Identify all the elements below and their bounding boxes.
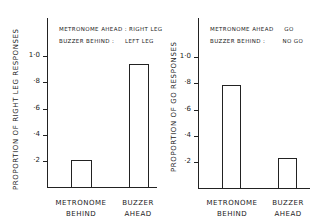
- category-label-buzzer-ahead: BUZZER AHEAD: [258, 198, 318, 220]
- category-line: METRONOME: [51, 198, 111, 209]
- tick-label: ·4: [26, 130, 40, 138]
- tick-label: 1·0: [177, 52, 191, 60]
- tick-label: ·2: [26, 156, 40, 164]
- legend-label: METRONOME AHEAD: [59, 26, 123, 32]
- legend-row-2: BUZZER BEHIND : LEFT LEG: [59, 38, 154, 44]
- tick: [43, 109, 47, 110]
- category-label-metronome-behind: METRONOME BEHIND: [51, 198, 111, 220]
- bar-buzzer-ahead: [129, 64, 149, 188]
- category-line: METRONOME: [202, 198, 262, 209]
- tick-label: ·6: [26, 104, 40, 112]
- tick-label: ·8: [26, 77, 40, 85]
- legend-row-1: METRONOME AHEAD GO: [210, 26, 294, 32]
- category-line: AHEAD: [108, 209, 168, 220]
- legend-value: NO GO: [282, 38, 303, 44]
- legend-label: METRONOME AHEAD: [210, 26, 274, 32]
- tick-label: ·2: [177, 157, 191, 165]
- tick: [194, 136, 198, 137]
- category-line: BEHIND: [202, 209, 262, 220]
- bar-metronome-behind: [222, 85, 241, 189]
- category-line: BUZZER: [258, 198, 318, 209]
- legend-value: LEFT LEG: [125, 38, 154, 44]
- category-label-metronome-behind: METRONOME BEHIND: [202, 198, 262, 220]
- legend-row-1: METRONOME AHEAD : RIGHT LEG: [59, 26, 162, 32]
- tick: [194, 83, 198, 84]
- tick-label: 1·0: [26, 51, 40, 59]
- legend-sep: :: [112, 38, 123, 44]
- y-axis: [47, 18, 48, 188]
- tick: [194, 110, 198, 111]
- legend-label: BUZZER BEHIND: [59, 38, 110, 44]
- category-line: BEHIND: [51, 209, 111, 220]
- tick: [43, 56, 47, 57]
- y-axis-label: PROPORTION OF RIGHT LEG RESPONSES: [12, 28, 20, 190]
- tick-label: ·8: [177, 78, 191, 86]
- legend-label: BUZZER BEHIND: [210, 38, 261, 44]
- tick: [43, 161, 47, 162]
- category-line: BUZZER: [108, 198, 168, 209]
- bar-buzzer-ahead: [278, 158, 297, 189]
- y-axis: [198, 18, 199, 188]
- tick-label: ·4: [177, 131, 191, 139]
- tick: [194, 162, 198, 163]
- right-chart: PROPORTION OF GO RESPONSES ·2 ·4 ·6 ·8 1…: [164, 0, 328, 224]
- legend-row-2: BUZZER BEHIND : NO GO: [210, 38, 303, 44]
- legend-value: GO: [284, 26, 293, 32]
- tick: [43, 82, 47, 83]
- tick-label: ·6: [177, 105, 191, 113]
- tick: [194, 57, 198, 58]
- left-chart: PROPORTION OF RIGHT LEG RESPONSES ·2 ·4 …: [0, 0, 164, 224]
- bar-metronome-behind: [71, 160, 92, 188]
- legend-sep: [276, 26, 282, 32]
- category-line: AHEAD: [258, 209, 318, 220]
- legend-value: RIGHT LEG: [129, 26, 162, 32]
- legend-sep: :: [263, 38, 280, 44]
- category-label-buzzer-ahead: BUZZER AHEAD: [108, 198, 168, 220]
- tick: [43, 135, 47, 136]
